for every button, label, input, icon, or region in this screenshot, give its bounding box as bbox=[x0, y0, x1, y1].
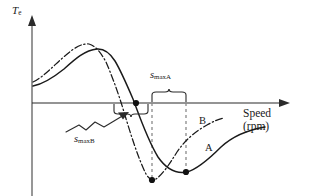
y-axis-arrowhead bbox=[28, 15, 36, 26]
curve-b-path bbox=[33, 44, 224, 180]
x-axis-arrowhead bbox=[279, 99, 290, 107]
smaxB-bracket bbox=[114, 104, 148, 117]
x-axis-label-line1: Speed bbox=[243, 108, 271, 120]
smaxB-subscript: maxB bbox=[78, 137, 95, 144]
smaxA-bracket bbox=[152, 89, 186, 102]
data-markers bbox=[133, 100, 189, 183]
curve-a-path bbox=[33, 49, 265, 173]
x-axis bbox=[32, 99, 290, 107]
y-axis-label: Te bbox=[12, 5, 21, 18]
y-axis-subscript: e bbox=[18, 9, 21, 17]
crossing-dot-a bbox=[133, 100, 139, 106]
smaxA-label: smaxA bbox=[150, 70, 171, 81]
y-axis bbox=[28, 15, 36, 196]
smaxB-label: smaxB bbox=[74, 134, 95, 145]
smaxA-subscript: maxA bbox=[154, 73, 171, 80]
minimum-dot-a bbox=[183, 169, 189, 175]
torque-speed-figure: Te Speed (rpm) smaxA smaxB A B bbox=[0, 0, 314, 196]
curve-a-label: A bbox=[205, 143, 213, 154]
smaxB-pointer-arrow bbox=[66, 112, 129, 132]
chart-canvas bbox=[0, 0, 314, 196]
curve-b-label: B bbox=[199, 116, 206, 127]
minimum-dot-b bbox=[149, 177, 155, 183]
x-axis-label-line2: (rpm) bbox=[243, 121, 269, 133]
